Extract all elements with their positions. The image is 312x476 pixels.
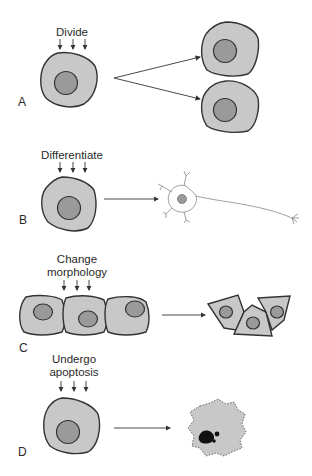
arrow-to-daughter-bottom-icon — [114, 78, 200, 99]
stimulus-label-apoptosis: apoptosis — [49, 366, 98, 378]
nucleus-icon — [214, 99, 237, 122]
nucleus-icon — [57, 421, 80, 444]
arrow-to-daughter-top-icon — [114, 57, 200, 78]
epithelial-cells-row-icon — [20, 296, 149, 335]
nucleus-icon — [55, 72, 78, 95]
stimulus-label-change: Change — [57, 253, 97, 265]
reshaped-cells-icon — [208, 295, 290, 336]
stimulus-label-divide: Divide — [56, 26, 88, 38]
panel-label-a: A — [18, 95, 26, 109]
stimulus-label-morphology: morphology — [47, 266, 107, 278]
neuron-icon — [158, 171, 299, 224]
nucleus-icon — [58, 197, 81, 220]
panel-a: Divide A — [18, 22, 259, 132]
panel-label-b: B — [19, 213, 27, 227]
stimulus-label-undergo: Undergo — [52, 353, 96, 365]
cell-response-diagram: Divide A Differentiate B — [0, 0, 312, 476]
stimulus-label-differentiate: Differentiate — [41, 149, 103, 161]
panel-label-d: D — [18, 445, 27, 459]
nucleus-icon — [214, 40, 237, 63]
stimulus-arrows-icon — [60, 162, 85, 172]
panel-label-c: C — [19, 341, 28, 355]
panel-b: Differentiate B — [19, 149, 299, 231]
panel-d: Undergo apoptosis D — [18, 353, 246, 459]
apoptotic-cell-icon — [188, 399, 246, 456]
panel-c: Change morphology C — [19, 253, 290, 355]
stimulus-arrows-icon — [64, 280, 89, 290]
stimulus-arrows-icon — [61, 381, 86, 391]
stimulus-arrows-icon — [60, 39, 85, 49]
